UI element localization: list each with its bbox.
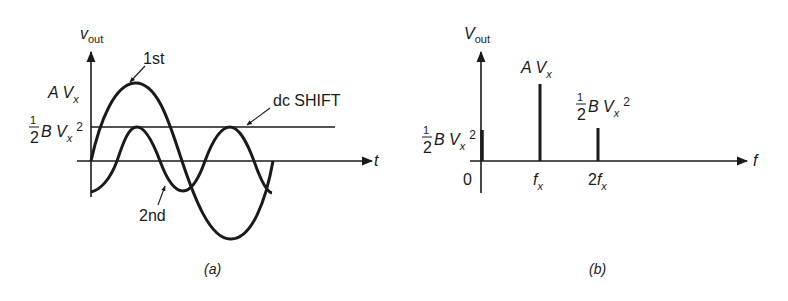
panel-a-dc-level-label: 1 2 B Vx2	[29, 114, 83, 146]
diagram-canvas: vout t A Vx 1 2 B Vx2 1st 2nd dc SHIFT (…	[0, 0, 788, 301]
panel-b-frequency-domain: Vout f 0 fx 2fx 1 2 B Vx2 A Vx 1 2 B Vx2…	[422, 25, 759, 277]
second-harmonic-label: 2nd	[139, 207, 166, 224]
first-label-pointer	[130, 66, 145, 82]
origin-tick-label: 0	[463, 171, 472, 188]
svg-text:2: 2	[577, 106, 586, 123]
panel-b-caption: (b)	[589, 261, 606, 277]
panel-b-x-label: f	[753, 152, 759, 169]
second-label-pointer	[158, 186, 165, 205]
svg-text:1: 1	[423, 124, 429, 136]
second-harmonic-bar-label: 1 2 B Vx2	[576, 91, 630, 123]
fundamental-bar-label: A Vx	[520, 59, 552, 80]
panel-b-y-label: Vout	[464, 25, 490, 45]
svg-text:B Vx2: B Vx2	[41, 120, 83, 144]
svg-text:2: 2	[423, 139, 432, 156]
dc-label-pointer	[247, 108, 270, 125]
svg-text:1: 1	[577, 91, 583, 103]
panel-a-time-domain: vout t A Vx 1 2 B Vx2 1st 2nd dc SHIFT (…	[29, 25, 379, 277]
first-harmonic-label: 1st	[143, 50, 165, 67]
dc-bar-label: 1 2 B Vx2	[422, 124, 476, 156]
dc-shift-label: dc SHIFT	[273, 92, 341, 109]
svg-text:B Vx2: B Vx2	[588, 95, 630, 119]
panel-a-y-label: vout	[80, 25, 103, 45]
svg-text:2: 2	[30, 129, 39, 146]
fx-tick-label: fx	[533, 171, 543, 192]
svg-text:B Vx2: B Vx2	[434, 128, 476, 152]
panel-a-caption: (a)	[204, 261, 221, 277]
2fx-tick-label: 2fx	[588, 171, 607, 192]
svg-text:1: 1	[30, 114, 36, 126]
panel-a-amplitude-label: A Vx	[47, 84, 79, 105]
panel-a-x-label: t	[374, 152, 379, 169]
